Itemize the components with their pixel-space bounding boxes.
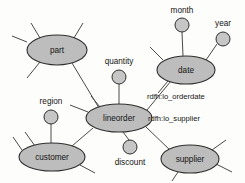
- attribute-label-quantity: quantity: [105, 57, 135, 66]
- attribute-node-month[interactable]: [175, 18, 189, 32]
- attribute-label-region: region: [40, 97, 63, 106]
- graph-stub-part-stub-nw: [31, 23, 40, 38]
- graph-stub-part-stub-sw: [27, 62, 40, 78]
- attribute-node-region[interactable]: [44, 110, 58, 124]
- attributes-layer: quantitymonthyearregiondiscount: [40, 6, 232, 167]
- edge-labels-layer: rdfh:lo_orderdaterdfh:lo_supplier: [147, 92, 205, 123]
- graph-stub-date-stub-w: [150, 47, 163, 60]
- graph-edge-date-year: [206, 44, 217, 60]
- entity-label-supplier: supplier: [176, 155, 205, 164]
- graph-edge-lineorder-supplier: [146, 127, 171, 151]
- graph-stub-lineorder-stub-w: [70, 105, 88, 112]
- graph-stub-customer-stub-se: [80, 165, 95, 173]
- graph-stub-supplier-stub-e: [216, 164, 232, 172]
- entity-label-lineorder: lineorder: [103, 114, 135, 123]
- attribute-label-month: month: [171, 6, 194, 15]
- entity-label-date: date: [178, 66, 194, 75]
- graph-edge-lineorder-customer: [72, 128, 93, 146]
- entity-label-part: part: [50, 46, 65, 55]
- graph-stub-customer-stub-n: [13, 137, 22, 150]
- attribute-label-discount: discount: [115, 158, 146, 167]
- graph-svg: quantitymonthyearregiondiscount partdate…: [0, 0, 245, 183]
- attribute-label-year: year: [215, 19, 231, 28]
- edge-label-lineorder-date: rdfh:lo_orderdate: [147, 92, 205, 101]
- graph-stub-supplier-stub-ne: [212, 140, 226, 150]
- graph-stub-part-stub-w: [12, 36, 27, 42]
- attribute-node-discount[interactable]: [123, 140, 137, 154]
- graph-edge-lineorder-discount: [123, 132, 129, 140]
- graph-stub-supplier-stub-sw: [172, 172, 178, 181]
- entity-label-customer: customer: [35, 153, 69, 162]
- graph-edge-date-month: [182, 32, 183, 56]
- attribute-node-year[interactable]: [216, 32, 230, 46]
- diagram-canvas: quantitymonthyearregiondiscount partdate…: [0, 0, 245, 183]
- graph-stub-part-stub-ne: [74, 23, 83, 38]
- graph-stub-customer-stub-nw: [25, 132, 35, 146]
- graph-edge-lineorder-part: [72, 63, 99, 108]
- edge-label-lineorder-supplier: rdfh:lo_supplier: [148, 114, 200, 123]
- attribute-node-quantity[interactable]: [112, 70, 126, 84]
